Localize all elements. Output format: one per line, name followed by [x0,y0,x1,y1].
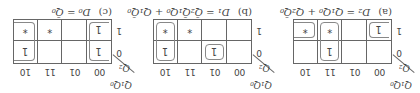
col-label: 01 [343,67,368,77]
map-title: (b)D₁ = Q̄₂Q̄₁Q₀ + Q₁Q̄₀ [127,7,252,18]
col-label: 10 [13,67,38,77]
corner-col-vars: Q₁Q₀ [110,80,132,90]
kmap-grid: 1 1 * * [293,19,392,64]
corner-row-var: Q₂ [259,63,270,73]
group-loop [14,22,35,61]
corner-row-var: Q₂ [399,63,410,73]
col-label: 01 [203,67,228,77]
group-loop [320,22,339,61]
group-loop [156,22,175,61]
row-label: 1 [396,26,402,36]
group-loop [89,22,109,61]
col-label: 10 [153,67,178,77]
col-label: 11 [178,67,203,77]
cell [62,19,87,42]
col-label: 11 [38,67,63,77]
cell [62,41,87,64]
col-label: 11 [318,67,343,77]
cell [177,41,202,64]
cell [226,19,251,42]
kmap-grid: 1 1 * * [153,19,252,64]
kmap-b: Q₁Q₀ Q₂ 00 01 11 10 0 1 1 1 * * (b)D₁ = … [140,0,280,93]
cell [366,41,391,64]
col-label: 01 [63,67,88,77]
row-label: 1 [116,26,122,36]
col-label: 10 [293,67,318,77]
row-label: 1 [256,26,262,36]
row-label: 0 [396,48,402,58]
col-label: 00 [367,67,392,77]
cell [226,41,251,64]
group-loop [369,22,389,38]
row-label: 0 [256,48,262,58]
cell: * [177,19,202,42]
map-title: (c)D₀ = Q̄₀ [52,7,112,18]
kmap-a: Q₁Q₀ Q₂ 00 01 11 10 0 1 1 1 * * (a)D₂ = … [280,0,420,93]
cell [293,41,318,64]
kmap-c: Q₁Q₀ Q₂ 00 01 11 10 0 1 1 1 1 * * (c)D₀ … [0,0,140,93]
cell [37,41,62,64]
col-label: 00 [87,67,112,77]
col-label: 00 [227,67,252,77]
cell: * [37,19,62,42]
map-title: (a)D₂ = Q₁Q₀ + Q₂Q̄₀ [280,7,392,18]
group-loop [205,44,224,60]
cell [202,19,227,42]
cell [342,41,367,64]
kmap-grid: 1 1 1 * * [13,19,112,64]
corner-col-vars: Q₁Q₀ [390,80,412,90]
corner-row-var: Q₂ [119,63,130,73]
corner-col-vars: Q₁Q₀ [250,80,272,90]
row-label: 0 [116,48,122,58]
kmap-figure: Q₁Q₀ Q₂ 00 01 11 10 0 1 1 1 * * (a)D₂ = … [0,0,420,93]
group-loop [294,22,315,38]
cell [342,19,367,42]
